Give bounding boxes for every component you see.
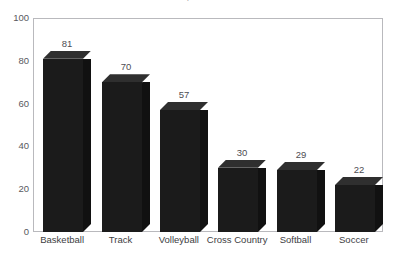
bar: [160, 102, 208, 232]
bar-top-face: [102, 74, 150, 82]
y-axis: 020406080100: [0, 18, 29, 232]
bar-front-face: [335, 185, 375, 232]
bar-side-face: [375, 185, 383, 232]
x-tick-label: Soccer: [315, 234, 393, 246]
bar-side-face: [200, 110, 208, 232]
bar-top-face: [218, 160, 266, 168]
chart-title: Girls' Sports at BHS: [0, 0, 395, 1]
bar: [102, 74, 150, 232]
chart-container: Girls' Sports at BHS 020406080100 817057…: [0, 0, 395, 257]
bar-top-face: [335, 177, 383, 185]
y-tick-label: 80: [0, 56, 29, 66]
y-tick-label: 60: [0, 99, 29, 109]
bar-value-label: 70: [92, 61, 160, 72]
bar-front-face: [43, 59, 83, 232]
bar-side-face: [317, 170, 325, 232]
bar-front-face: [160, 110, 200, 232]
y-tick-label: 40: [0, 141, 29, 151]
x-axis: BasketballTrackVolleyballCross CountrySo…: [33, 234, 383, 250]
bar-side-face: [142, 82, 150, 232]
y-tick-label: 100: [0, 13, 29, 23]
bar-value-label: 30: [208, 147, 276, 158]
bar: [277, 162, 325, 232]
bar-top-face: [160, 102, 208, 110]
bar-front-face: [277, 170, 317, 232]
bar: [43, 51, 91, 232]
bars-layer: 817057302922: [33, 18, 383, 232]
bar-top-face: [43, 51, 91, 59]
bar-front-face: [102, 82, 142, 232]
bar-value-label: 29: [267, 149, 335, 160]
bar: [335, 177, 383, 232]
bar-value-label: 57: [150, 89, 218, 100]
bar-top-face: [277, 162, 325, 170]
bar: [218, 160, 266, 232]
bar-side-face: [258, 168, 266, 232]
bar-front-face: [218, 168, 258, 232]
bar-side-face: [83, 59, 91, 232]
bar-value-label: 22: [325, 164, 393, 175]
bar-value-label: 81: [33, 38, 101, 49]
y-tick-label: 20: [0, 184, 29, 194]
